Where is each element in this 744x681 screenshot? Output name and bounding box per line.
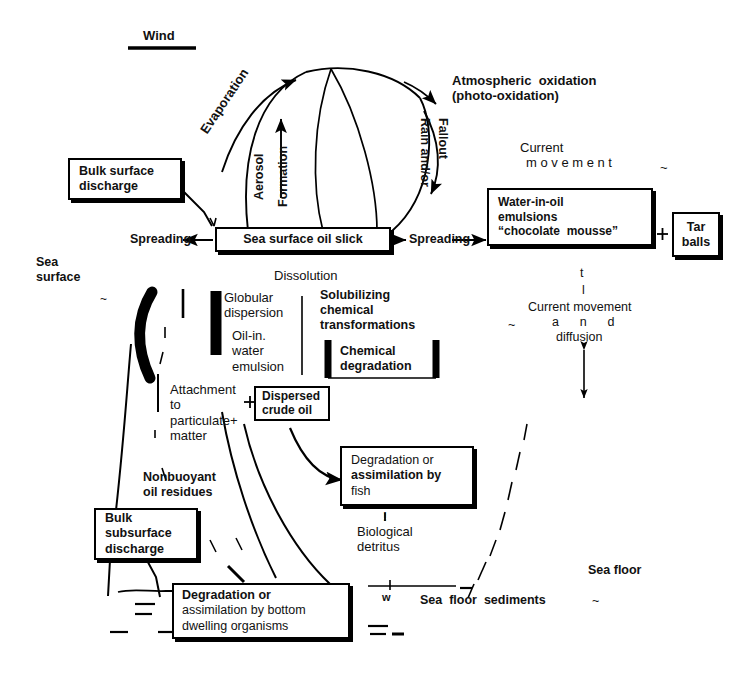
- label-rain-and-or: Rain and/or: [417, 118, 432, 187]
- sea-surface-oil-slick-text: Sea surface oil slick: [217, 232, 389, 247]
- box-tar-balls[interactable]: Tarballs: [672, 212, 720, 257]
- label-atmospheric-oxidation: Atmospheric oxidation(photo-oxidation): [452, 73, 596, 104]
- bulk-surface-discharge-text: Bulk surfacedischarge: [79, 164, 154, 195]
- label-oil-in-water-emulsion: Oil-in.wateremulsion: [232, 328, 284, 374]
- dispersed-crude-oil-text: Dispersedcrude oil: [262, 389, 320, 418]
- sediment-streak-5: [490, 540, 496, 556]
- dome-rib-right: [331, 69, 377, 231]
- label-sea-floor: Sea floor: [588, 563, 642, 578]
- globular-bracket: [140, 292, 152, 378]
- label-solubilizing-chemical-transformations: Solubilizingchemicaltransformations: [320, 288, 415, 332]
- sediment-tick-a: [210, 540, 216, 552]
- label-diffusion-tilde: ~: [508, 318, 515, 333]
- label-globular-dispersion: Globulardispersion: [224, 290, 283, 321]
- label-current-and-diffusion-t: t: [580, 266, 583, 281]
- label-aerosol: Aerosol: [252, 153, 267, 200]
- label-detritus-exclaim: !: [383, 510, 387, 524]
- label-current-movement-and-diffusion: Current movementa n ddiffusion: [528, 300, 632, 344]
- water-in-oil-text: Water-in-oilemulsions“chocolate mousse”: [498, 195, 618, 239]
- box-bulk-subsurface-discharge[interactable]: Bulksubsurfacedischarge: [94, 508, 198, 560]
- diagram-vector-layer: [0, 0, 744, 681]
- label-sea-surface: Seasurface: [36, 255, 80, 285]
- sediment-tick-c: [228, 566, 244, 582]
- sediment-streak-6: [478, 562, 486, 580]
- label-biological-detritus: Biologicaldetritus: [357, 524, 413, 555]
- degradation-fish-text: Degradation orassimilation byfish: [351, 453, 441, 499]
- box-sea-surface-oil-slick[interactable]: Sea surface oil slick: [215, 227, 391, 252]
- label-nonbuoyant-oil-residues: Nonbuoyantoil residues: [143, 470, 216, 500]
- chemical-degradation-text: Chemicaldegradation: [340, 344, 412, 374]
- label-spreading-right: Spreading: [409, 232, 470, 247]
- sediment-streak-2: [516, 452, 520, 470]
- label-current-movement: Currentm o v e m e n t: [520, 140, 612, 171]
- sediment-streak-1: [524, 424, 527, 440]
- oil-spill-fate-diagram: Bulk surfacedischarge Sea surface oil sl…: [0, 0, 744, 681]
- dome-rib-left: [315, 69, 331, 231]
- box-bulk-surface-discharge[interactable]: Bulk surfacedischarge: [68, 158, 182, 200]
- dispersed-to-fish-arrow: [290, 428, 342, 480]
- settling-curve-right: [244, 424, 330, 584]
- label-current-movement-tilde: ~: [660, 160, 668, 175]
- label-dissolution: Dissolution: [274, 268, 338, 283]
- sediment-streak-4: [500, 512, 505, 530]
- dispersion-rule-3: [160, 352, 163, 364]
- box-degradation-fish[interactable]: Degradation orassimilation byfish: [340, 446, 474, 506]
- tar-balls-text: Tarballs: [674, 219, 718, 250]
- label-fallout: Fallout: [435, 118, 450, 159]
- bulk-surface-connector: [182, 190, 212, 226]
- sediment-tick-b: [236, 538, 242, 550]
- label-sea-floor-sediments: Sea floor sediments: [420, 593, 546, 608]
- atmospheric-oxidation-arrow: [404, 82, 436, 104]
- label-attachment-to-particulate-matter: Attachmenttoparticulate+matter: [170, 382, 238, 443]
- label-formation: Formation: [276, 146, 291, 207]
- bulk-subsurface-discharge-text: Bulksubsurfacedischarge: [105, 511, 172, 557]
- box-degradation-bottom-dwelling[interactable]: Degradation orassimilation by bottomdwel…: [172, 583, 350, 639]
- sediment-streak-3: [508, 482, 512, 500]
- degradation-bottom-text: Degradation orassimilation by bottomdwel…: [182, 588, 306, 634]
- label-sea-floor-sediments-tilde: ~: [592, 594, 599, 609]
- box-water-in-oil-emulsions[interactable]: Water-in-oilemulsions“chocolate mousse”: [487, 188, 653, 246]
- label-wind: Wind: [143, 28, 175, 43]
- label-current-and-diffusion-bar: l: [582, 283, 585, 298]
- label-w-mark: w: [382, 591, 391, 604]
- label-sea-surface-tilde: ~: [100, 292, 107, 306]
- label-spreading-left: Spreading: [130, 232, 191, 247]
- box-dispersed-crude-oil[interactable]: Dispersedcrude oil: [254, 386, 330, 421]
